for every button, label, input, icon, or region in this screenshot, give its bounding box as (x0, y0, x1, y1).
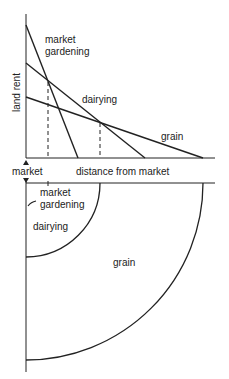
grain-label: grain (161, 131, 183, 142)
market-gardening-label-2: gardening (45, 46, 89, 57)
y-axis-label: land rent (11, 73, 22, 112)
von-thunen-diagram: land rent market gardening dairying grai… (0, 0, 229, 379)
dairying-line (26, 63, 145, 158)
market-origin-label: market (12, 166, 43, 177)
grain-line (26, 97, 203, 158)
market-gardening-label-1: market (45, 34, 76, 45)
mg-zone-pointer (28, 201, 36, 206)
zone-grain-label: grain (113, 257, 135, 268)
x-axis-label: distance from market (76, 166, 170, 177)
zone-dairying-label: dairying (33, 221, 68, 232)
market-arrow-up-icon (23, 160, 29, 165)
zone-mg-label-2: gardening (40, 199, 84, 210)
dairying-label: dairying (82, 94, 117, 105)
zone-mg-label-1: market (40, 187, 71, 198)
